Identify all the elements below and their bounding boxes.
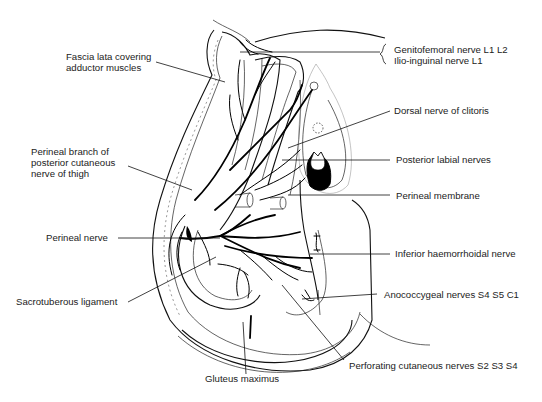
vessel-stump-2 — [280, 197, 286, 209]
buttock-right-curve — [360, 314, 430, 345]
perineal-branch-nerve — [195, 58, 270, 200]
inguinal-contour — [213, 20, 250, 42]
label-gluteus-maximus: Gluteus maximus — [205, 373, 279, 384]
gluteus-tick — [250, 316, 251, 338]
label-posterior-labial-nerves: Posterior labial nerves — [396, 154, 491, 165]
clitoris — [310, 82, 318, 90]
label-anococcygeal-nerves: Anococcygeal nerves S4 S5 C1 — [384, 289, 519, 300]
leader-anococcygeal — [302, 294, 377, 299]
ischiopubic-ramus — [290, 80, 301, 195]
label-perineal-nerve: Perineal nerve — [46, 232, 108, 243]
perineal-nerve-black-tip — [186, 226, 192, 242]
anal-region — [286, 230, 326, 315]
label-ilioinguinal-nerve: Ilio-inguinal nerve L1 — [394, 55, 483, 66]
adductor-region — [220, 32, 280, 230]
label-dorsal-nerve-clitoris: Dorsal nerve of clitoris — [394, 105, 489, 116]
perineal-branches — [220, 215, 300, 268]
external-urethral-orifice — [313, 123, 323, 133]
label-fascia-lata: Fascia lata covering adductor muscles — [66, 51, 151, 73]
gluteal-branch-nerves — [218, 264, 249, 298]
hymen-detail — [311, 152, 325, 170]
leader-perforating — [282, 285, 344, 360]
vessel-stump-1 — [247, 193, 253, 207]
haemorrhoidal-tag — [314, 233, 320, 252]
leader-fascia-lata — [156, 62, 225, 82]
perineal-membrane-edge — [300, 180, 318, 300]
haemorrhoidal-branches — [240, 250, 312, 280]
thigh-nerve-branches — [169, 215, 210, 275]
bracket-genitofemoral — [380, 44, 386, 64]
label-perforating-cutaneous-nerves: Perforating cutaneous nerves S2 S3 S4 — [349, 360, 518, 371]
inferior-haemorrhoidal-nerve — [225, 246, 312, 258]
label-perineal-branch: Perineal branch of posterior cutaneous n… — [31, 146, 115, 179]
label-genitofemoral-nerve: Genitofemoral nerve L1 L2 — [394, 44, 508, 55]
label-perineal-membrane: Perineal membrane — [396, 190, 480, 201]
label-sacrotuberous-ligament: Sacrotuberous ligament — [16, 296, 117, 307]
abdominal-wall-outline — [255, 30, 385, 42]
label-inferior-haemorrhoidal-nerve: Inferior haemorrhoidal nerve — [395, 248, 516, 259]
